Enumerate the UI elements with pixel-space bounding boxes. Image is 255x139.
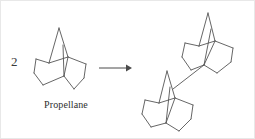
l-bond-right-lower xyxy=(179,119,191,131)
u-bond-right-edge xyxy=(231,48,233,62)
reaction-arrow xyxy=(99,65,132,72)
structures-canvas xyxy=(1,1,255,139)
arrow-head xyxy=(126,65,132,72)
bond-right-to-bridgehead xyxy=(64,76,74,89)
u-bond-left-edge xyxy=(182,43,185,57)
l-bond-right-to-bridgehead xyxy=(166,123,179,131)
propellane-structure xyxy=(34,28,86,89)
u-bond-left-lower xyxy=(182,57,191,70)
u-bond-apex-left xyxy=(199,13,208,46)
l-bond-left-to-bridgehead xyxy=(151,123,166,127)
l-bond-apex-right xyxy=(167,71,175,98)
reactant-label: Propellane xyxy=(23,99,109,110)
u-bond-right-upper xyxy=(215,41,233,48)
l-bond-left-edge xyxy=(142,100,145,114)
l-bond-apex-left xyxy=(159,71,167,103)
l-bond-upper-left xyxy=(145,100,159,103)
l-bond-right-edge xyxy=(191,105,193,119)
bond-upper-left xyxy=(36,59,49,63)
bond-upper-cross xyxy=(49,57,68,63)
reaction-scheme: 2 xyxy=(0,0,255,139)
u-bond-right-to-bridgehead xyxy=(204,65,217,73)
l-bond-right-upper xyxy=(175,98,193,105)
bond-apex-left xyxy=(49,28,59,63)
u-bond-left-to-bridgehead xyxy=(191,65,204,70)
bond-right-lower xyxy=(74,78,84,89)
u-bond-upper-left xyxy=(185,43,199,46)
bond-central-strut xyxy=(63,45,64,76)
bond-right-down xyxy=(64,57,68,76)
product-upper-cage xyxy=(182,13,233,73)
u-bond-right-lower xyxy=(217,62,231,73)
bond-left-to-bridgehead xyxy=(43,76,64,85)
l-bond-upper-cross xyxy=(159,98,175,103)
u-bond-right-down xyxy=(204,41,215,65)
u-bond-central-strut xyxy=(204,29,211,65)
bond-left-edge xyxy=(34,59,36,73)
bond-right-edge xyxy=(84,64,86,78)
bond-left-lower xyxy=(34,73,43,85)
l-bond-left-lower xyxy=(142,114,151,127)
bond-right-upper xyxy=(68,57,86,64)
inter-cage-bond xyxy=(173,65,204,89)
